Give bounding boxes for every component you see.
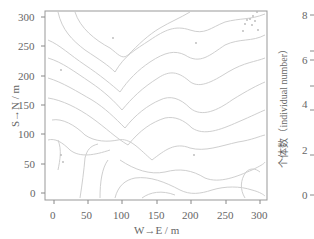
colorbar-ticks [310, 15, 314, 195]
colorbar-tick-label: 4 [302, 99, 308, 110]
colorbar-tick-label: 2 [302, 145, 308, 156]
x-tick-label: 200 [182, 210, 199, 221]
x-tick-label: 250 [217, 210, 234, 221]
y-axis-title: S→N / m [9, 71, 21, 141]
y-ticks [41, 17, 45, 193]
colorbar-tick-label: 0 [302, 190, 308, 201]
x-axis-title: W→E / m [134, 224, 179, 236]
colorbar-tick-label: 6 [302, 55, 308, 66]
y-tick-label: 300 [18, 12, 35, 23]
contour-lines [48, 12, 265, 198]
x-tick-label: 150 [148, 210, 165, 221]
contour-plot [0, 0, 314, 239]
x-tick-label: 0 [50, 210, 56, 221]
colorbar-title: 个体数（individual number） [275, 48, 290, 168]
y-tick-label: 250 [18, 41, 35, 52]
colorbar-tick-label: 8 [302, 10, 308, 21]
x-tick-label: 300 [251, 210, 268, 221]
y-tick-label: 0 [30, 188, 36, 199]
x-tick-label: 50 [81, 210, 92, 221]
plot-frame [45, 11, 267, 200]
y-tick-label: 50 [24, 159, 35, 170]
x-ticks [54, 200, 260, 204]
x-tick-label: 100 [113, 210, 130, 221]
